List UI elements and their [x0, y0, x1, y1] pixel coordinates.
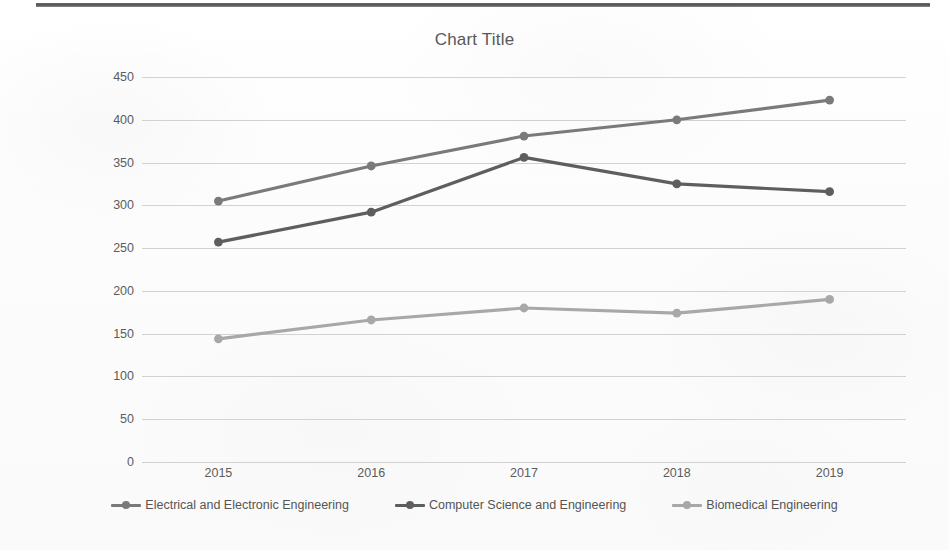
x-axis-tick-labels: 20152016201720182019: [142, 466, 906, 488]
y-axis-tick-label: 150: [88, 327, 134, 341]
series-data-point: [520, 153, 529, 162]
legend-label: Electrical and Electronic Engineering: [145, 498, 349, 512]
y-axis-tick-label: 0: [88, 455, 134, 469]
y-axis-tick-label: 50: [88, 412, 134, 426]
legend-item[interactable]: Biomedical Engineering: [672, 498, 837, 512]
series-data-point: [672, 115, 681, 124]
series-data-point: [214, 334, 223, 343]
series-data-point: [520, 132, 529, 141]
gridline: [142, 462, 906, 463]
series-data-point: [825, 96, 834, 105]
y-axis-tick-labels: 050100150200250300350400450: [78, 77, 134, 462]
y-axis-tick-label: 400: [88, 113, 134, 127]
line-chart: Chart Title 050100150200250300350400450 …: [0, 0, 949, 550]
y-axis-tick-label: 250: [88, 241, 134, 255]
y-axis-tick-label: 350: [88, 156, 134, 170]
x-axis-tick-label: 2016: [357, 466, 385, 480]
y-axis-tick-label: 300: [88, 198, 134, 212]
legend-label: Biomedical Engineering: [706, 498, 837, 512]
y-axis-tick-label: 200: [88, 284, 134, 298]
series-data-point: [367, 316, 376, 325]
y-axis-tick-label: 450: [88, 70, 134, 84]
chart-plot-area: [142, 77, 906, 462]
x-axis-tick-label: 2015: [204, 466, 232, 480]
series-data-point: [672, 180, 681, 189]
series-data-point: [214, 238, 223, 247]
chart-title: Chart Title: [0, 30, 949, 50]
chart-series-layer: [142, 77, 906, 462]
x-axis-tick-label: 2019: [816, 466, 844, 480]
chart-legend: Electrical and Electronic EngineeringCom…: [0, 498, 949, 512]
x-axis-tick-label: 2018: [663, 466, 691, 480]
series-data-point: [520, 304, 529, 313]
legend-marker-icon: [111, 499, 141, 511]
legend-label: Computer Science and Engineering: [429, 498, 626, 512]
series-data-point: [214, 197, 223, 206]
series-data-point: [367, 208, 376, 217]
legend-marker-icon: [672, 499, 702, 511]
series-data-point: [367, 162, 376, 171]
x-axis-tick-label: 2017: [510, 466, 538, 480]
series-data-point: [825, 295, 834, 304]
legend-item[interactable]: Computer Science and Engineering: [395, 498, 626, 512]
legend-marker-icon: [395, 499, 425, 511]
y-axis-tick-label: 100: [88, 369, 134, 383]
series-line: [218, 157, 829, 242]
series-data-point: [672, 309, 681, 318]
series-data-point: [825, 187, 834, 196]
legend-item[interactable]: Electrical and Electronic Engineering: [111, 498, 349, 512]
